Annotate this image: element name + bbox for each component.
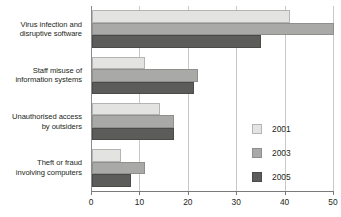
category-label-line: disruptive software	[0, 29, 82, 39]
category-label-line: Virus infection and	[0, 20, 82, 30]
x-tick-label: 30	[232, 197, 241, 207]
bar	[92, 82, 194, 95]
bar-chart: Virus infection anddisruptive softwareSt…	[0, 0, 341, 217]
x-tick	[285, 191, 286, 195]
x-axis-line	[91, 191, 334, 192]
category-label: Staff misuse ofinformation systems	[0, 66, 82, 85]
x-tick	[91, 191, 92, 195]
x-tick	[236, 191, 237, 195]
category-label: Theft or fraudinvolving computers	[0, 158, 82, 177]
legend-item-2005[interactable]: 2005	[252, 171, 312, 183]
category-label-line: by outsiders	[0, 122, 82, 132]
legend-swatch-icon	[252, 148, 262, 158]
bar	[92, 57, 145, 70]
category-label-line: Unauthorised access	[0, 112, 82, 122]
legend-label: 2001	[272, 124, 291, 134]
x-tick	[333, 191, 334, 195]
legend-label: 2003	[272, 148, 291, 158]
legend-item-2003[interactable]: 2003	[252, 147, 312, 159]
x-tick-label: 20	[183, 197, 192, 207]
x-tick-label: 50	[328, 197, 337, 207]
legend-item-2001[interactable]: 2001	[252, 123, 312, 135]
x-tick	[188, 191, 189, 195]
legend: 200120032005	[252, 123, 312, 185]
x-tick-label: 10	[135, 197, 144, 207]
category-label-line: information systems	[0, 75, 82, 85]
category-label-line: involving computers	[0, 168, 82, 178]
bar	[92, 128, 174, 141]
x-tick-label: 40	[280, 197, 289, 207]
category-label-line: Staff misuse of	[0, 66, 82, 76]
legend-swatch-icon	[252, 124, 262, 134]
category-axis-labels: Virus infection anddisruptive softwareSt…	[0, 6, 86, 191]
bar	[92, 115, 174, 128]
x-tick-label: 0	[89, 197, 94, 207]
bar	[92, 103, 160, 116]
x-tick	[139, 191, 140, 195]
legend-swatch-icon	[252, 172, 262, 182]
category-label: Unauthorised accessby outsiders	[0, 112, 82, 131]
bar	[92, 162, 145, 175]
bar	[92, 149, 121, 162]
bar	[92, 10, 290, 23]
category-label-line: Theft or fraud	[0, 158, 82, 168]
legend-label: 2005	[272, 172, 291, 182]
bar	[92, 23, 334, 36]
bar	[92, 174, 131, 187]
category-label: Virus infection anddisruptive software	[0, 20, 82, 39]
bar	[92, 69, 198, 82]
bar	[92, 35, 261, 48]
